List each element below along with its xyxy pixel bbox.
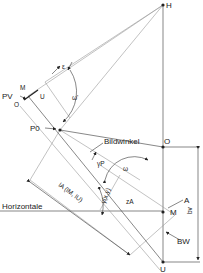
label-pv: PV <box>2 92 13 101</box>
label-a: A <box>184 196 190 205</box>
label-gamma-xy: γ(x,y) <box>99 187 112 205</box>
point-m <box>161 210 164 213</box>
label-bildwinkel: Bildwinkel <box>104 137 140 146</box>
label-o-small: O <box>14 101 19 108</box>
perspective-geometry-diagram: H PV M O U ε ω' P0 Bildwinkel γP ω O A z… <box>0 0 203 273</box>
ray-p0-down <box>30 130 60 180</box>
label-o: O <box>164 137 170 146</box>
label-u: U <box>160 265 166 273</box>
bildwinkel-leader <box>90 143 103 152</box>
point-p0 <box>58 128 61 131</box>
label-m-small: M <box>20 84 25 91</box>
ray-u-short <box>45 82 70 118</box>
ray-h-upper <box>28 5 163 96</box>
label-epsilon: ε <box>62 63 65 70</box>
label-la: lA (lM, lU) <box>57 181 84 204</box>
label-bw: BW <box>177 237 190 246</box>
epsilon-arrow-b <box>68 62 72 70</box>
point-u <box>161 260 164 263</box>
label-horizontale: Horizontale <box>2 202 43 211</box>
point-h <box>161 3 164 6</box>
camera-body <box>24 90 38 100</box>
pv-arrow <box>20 96 26 99</box>
label-omega-prime: ω' <box>72 94 78 101</box>
ray-h-mid <box>45 5 163 82</box>
label-h: H <box>166 1 172 10</box>
gamma-p-arrow <box>92 152 96 160</box>
label-za: zA <box>126 198 134 205</box>
label-omega: ω <box>123 165 128 172</box>
ray-pv-u <box>28 96 163 262</box>
label-u-small: U <box>40 93 45 100</box>
label-p0: P0 <box>30 124 40 133</box>
ray-h-p0 <box>60 5 163 130</box>
a-leader <box>168 200 183 208</box>
label-bv: bv <box>186 206 193 214</box>
label-m: M <box>170 208 177 217</box>
la-dimension-line <box>30 182 130 255</box>
label-gamma-p: γP <box>97 160 105 168</box>
